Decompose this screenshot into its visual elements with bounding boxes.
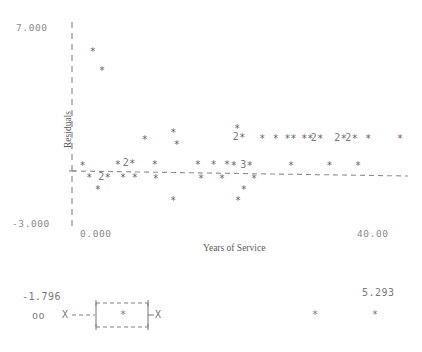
data-point-marker: *	[142, 135, 148, 145]
data-point-marker: *	[247, 161, 253, 171]
data-point-marker: *	[231, 161, 237, 171]
data-point-marker: *	[327, 161, 333, 171]
data-point-marker: *	[397, 134, 403, 144]
data-point-marker: *	[80, 161, 86, 171]
data-point-marker: *	[219, 174, 225, 184]
data-point-marker: *	[115, 160, 121, 170]
scatter-plot-panel: 7.000 -3.000 0.000 40.00 Residuals Years…	[0, 0, 422, 265]
data-point-marker: *	[251, 174, 257, 184]
data-point-marker: *	[239, 133, 245, 143]
data-point-marker: *	[99, 66, 105, 76]
boxplot-high-outliers-layer: **	[0, 265, 422, 352]
data-point-marker: *	[86, 173, 92, 183]
overlap-count-label: 2	[98, 172, 104, 182]
data-point-marker: *	[241, 185, 247, 195]
data-point-marker: *	[152, 160, 158, 170]
data-point-marker: *	[224, 160, 230, 170]
boxplot-outlier-marker: *	[312, 309, 319, 320]
data-point-marker: *	[355, 161, 361, 171]
data-point-marker: *	[259, 134, 265, 144]
data-point-marker: *	[105, 173, 111, 183]
data-point-marker: *	[235, 196, 241, 206]
overlap-count-label: 3	[240, 160, 246, 170]
data-point-marker: *	[352, 134, 358, 144]
data-point-marker: *	[129, 159, 135, 169]
data-point-marker: *	[211, 160, 217, 170]
data-point-marker: *	[317, 134, 323, 144]
data-point-marker: *	[170, 128, 176, 138]
overlap-count-label: 2	[123, 158, 129, 168]
data-point-marker: *	[365, 134, 371, 144]
data-points-layer: ******2*******2*2*2*****2******3*****2**…	[0, 0, 422, 265]
boxplot-panel: -1.796 5.293 oo X X *	[0, 265, 422, 352]
boxplot-outlier-marker: *	[372, 309, 379, 320]
data-point-marker: *	[153, 174, 159, 184]
data-point-marker: *	[95, 185, 101, 195]
data-point-marker: *	[198, 174, 204, 184]
data-point-marker: *	[273, 134, 279, 144]
data-point-marker: *	[170, 196, 176, 206]
data-point-marker: *	[90, 47, 96, 57]
data-point-marker: *	[132, 173, 138, 183]
overlap-count-label: 2	[233, 132, 239, 142]
data-point-marker: *	[174, 140, 180, 150]
overlap-count-label: 2	[311, 133, 317, 143]
overlap-count-label: 2	[334, 133, 340, 143]
data-point-marker: *	[290, 134, 296, 144]
overlap-count-label: 2	[345, 133, 351, 143]
residual-plot-screenshot: 7.000 -3.000 0.000 40.00 Residuals Years…	[0, 0, 422, 352]
data-point-marker: *	[120, 173, 126, 183]
data-point-marker: *	[288, 161, 294, 171]
data-point-marker: *	[195, 160, 201, 170]
